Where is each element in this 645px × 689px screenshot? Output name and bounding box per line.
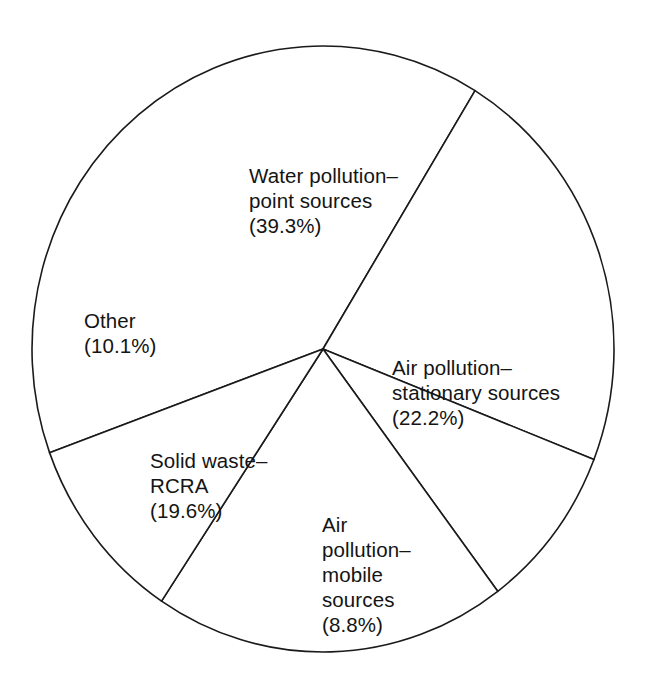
- slice-label-air-pollution-mobile-sources: Air pollution– mobile sources (8.8%): [322, 512, 411, 637]
- slice-label-water-pollution-point-sources: Water pollution– point sources (39.3%): [249, 163, 398, 238]
- slice-label-air-pollution-stationary-sources: Air pollution– stationary sources (22.2%…: [392, 355, 560, 430]
- slice-label-other: Other (10.1%): [84, 308, 156, 358]
- slice-label-solid-waste-rcra: Solid waste– RCRA (19.6%): [150, 448, 267, 523]
- pie-chart: Water pollution– point sources (39.3%) O…: [0, 0, 645, 689]
